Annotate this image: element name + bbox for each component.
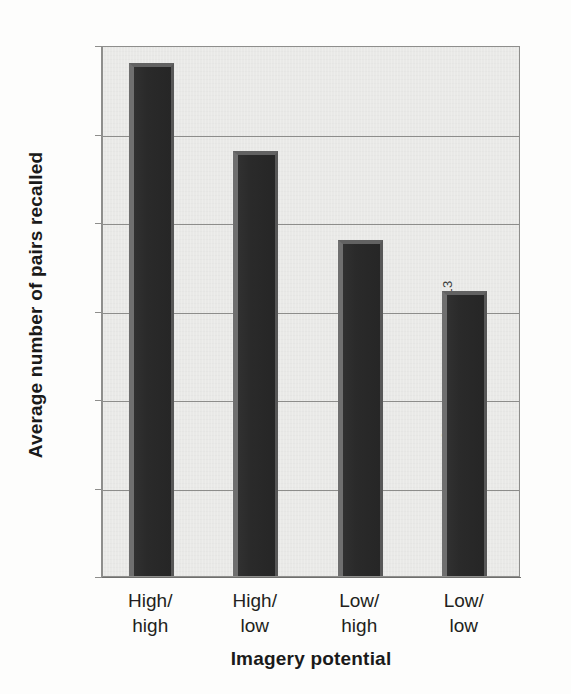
x-axis-tick-label-line: Low/ xyxy=(404,588,524,613)
bar-face xyxy=(343,244,380,576)
x-axis-tick-label-line: High/ xyxy=(195,588,315,613)
x-axis-tick-label-line: low xyxy=(195,613,315,638)
bar-face xyxy=(447,295,484,576)
x-axis-title: Imagery potential xyxy=(102,648,520,670)
x-axis-tick-label-line: high xyxy=(90,613,210,638)
x-axis-tick-label-line: low xyxy=(404,613,524,638)
x-axis-tick-label: High/high xyxy=(90,588,210,638)
bar-face xyxy=(238,155,275,576)
bar xyxy=(233,151,278,576)
y-axis-title: Average number of pairs recalled xyxy=(25,45,47,565)
x-axis-tick-label-line: high xyxy=(299,613,419,638)
plot-area xyxy=(102,46,520,577)
x-axis-line xyxy=(102,577,521,578)
bar-face xyxy=(134,67,171,576)
bar xyxy=(442,291,487,576)
x-axis-tick-label-line: High/ xyxy=(90,588,210,613)
x-axis-tick-label-line: Low/ xyxy=(299,588,419,613)
x-axis-tick-label: High/low xyxy=(195,588,315,638)
figure-container: Average number of pairs recalled 0246810… xyxy=(0,0,571,694)
x-axis-tick-label: Low/low xyxy=(404,588,524,638)
bar xyxy=(129,63,174,576)
bar xyxy=(338,240,383,576)
x-axis-tick-label: Low/high xyxy=(299,588,419,638)
